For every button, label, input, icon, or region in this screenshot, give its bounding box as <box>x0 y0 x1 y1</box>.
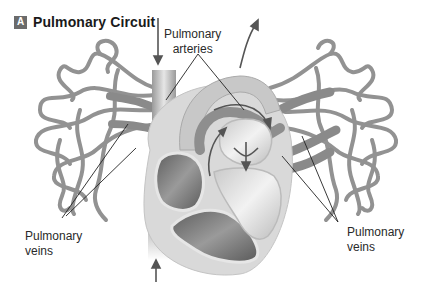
arrowhead-ivc <box>152 260 160 268</box>
label-pulmonary-veins-left: Pulmonary veins <box>25 229 82 259</box>
label-pulmonary-arteries: Pulmonary arteries <box>164 27 221 57</box>
right-atrium <box>156 153 204 210</box>
label-arteries-line1: Pulmonary <box>164 27 221 42</box>
arrow-pulmonary-out <box>240 24 256 68</box>
label-arteries-line2: arteries <box>164 42 221 57</box>
label-veins-left-line1: Pulmonary <box>25 229 82 244</box>
left-lung-capillaries <box>36 41 155 220</box>
label-veins-right-line1: Pulmonary <box>347 225 404 240</box>
label-veins-right-line2: veins <box>347 240 404 255</box>
arrowhead-svc <box>154 56 162 64</box>
label-pulmonary-veins-right: Pulmonary veins <box>347 225 404 255</box>
label-veins-left-line2: veins <box>25 244 82 259</box>
